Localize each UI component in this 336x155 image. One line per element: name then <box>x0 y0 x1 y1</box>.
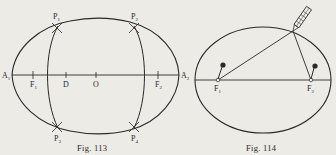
figure-113 <box>12 18 179 134</box>
figure-114 <box>195 6 331 133</box>
label-a2: A2 <box>181 71 190 81</box>
cross-p2 <box>129 23 139 33</box>
figure-114-labels: F1 F2 Fig. 114 <box>214 84 314 153</box>
caption-fig-113: Fig. 113 <box>77 143 107 153</box>
label-f1: F1 <box>214 84 221 94</box>
figure-113-labels: A1 A2 F1 D O F2 P1 P2 P3 P4 Fig. 113 <box>2 12 190 153</box>
construction-arc-right <box>134 26 145 128</box>
string-f2-to-pencil <box>293 31 311 80</box>
label-f1: F1 <box>30 80 37 90</box>
figure-plate: A1 A2 F1 D O F2 P1 P2 P3 P4 Fig. 113 <box>0 0 336 155</box>
label-f2: F2 <box>307 84 314 94</box>
label-p4: P4 <box>131 134 138 144</box>
pin-icon <box>311 63 318 79</box>
label-p2: P2 <box>131 12 138 22</box>
ellipse-outline <box>12 18 179 134</box>
cross-p3 <box>52 122 62 132</box>
label-p1: P1 <box>53 12 60 22</box>
string-f1-to-pencil <box>218 31 293 80</box>
label-p3: P3 <box>54 134 61 144</box>
pin-icon <box>218 62 226 79</box>
label-d: D <box>63 80 69 89</box>
label-o: O <box>93 80 99 89</box>
pencil-icon <box>291 6 312 32</box>
label-a1: A1 <box>2 71 11 81</box>
cross-p4 <box>129 122 139 132</box>
construction-arc-left <box>48 26 59 128</box>
label-f2: F2 <box>155 80 162 90</box>
caption-fig-114: Fig. 114 <box>246 143 277 153</box>
